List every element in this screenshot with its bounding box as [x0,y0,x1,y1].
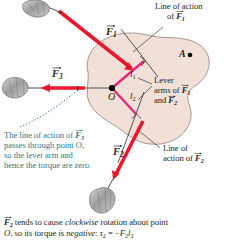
callout-lever-arms: Lever arms of F1 and F2 [154,76,190,107]
caption-emphasis-negative: negative [66,228,95,238]
callout-line-of-action-f2-line2: action of F2 [163,154,204,164]
gripper-f1 [23,0,50,17]
force-label-f1-symbol: F [106,26,113,37]
force-label-f3: F3 [52,68,63,81]
figure-caption: F2 tends to cause clockwise rotation abo… [4,218,226,239]
note-torque-zero: The line of action of F3 passes through … [4,131,91,171]
force-label-f2-subscript: 2 [120,150,124,159]
point-a-label: A [179,48,186,59]
callout-line-of-action-f2: Line of action of F2 [163,144,204,164]
lever-arm-l2-label: l2 [130,91,136,102]
torque-figure: F1 F3 F2 A O l1 l2 Line of action of F1 [0,0,228,243]
lever-arm-l2-subscript: 2 [133,95,136,102]
force-label-f2-symbol: F [113,146,120,157]
callout-lever-arms-line3: and F2 [154,96,190,106]
callout-line-of-action-f1-line2: of F1 [155,12,203,22]
force-label-f3-symbol: F [52,68,59,79]
force-label-f2: F2 [113,146,124,159]
caption-emphasis-clockwise: clockwise [65,217,98,227]
callout-line-of-action-f1: Line of action of F1 [155,2,203,22]
note-leader-dotted [20,90,78,127]
caption-line-2: O, so its torque is negative: τ2 = −F2l2 [4,229,226,240]
gripper-f2 [89,188,115,214]
force-label-f3-subscript: 3 [59,72,63,81]
note-line-4: hence the torque are zero. [4,161,91,171]
point-o-label: O [108,91,115,102]
lever-arm-l1-label: l1 [130,69,136,80]
lever-arm-l1-subscript: 1 [133,73,136,80]
force-label-f1: F1 [106,26,117,39]
gripper-f3 [2,77,28,98]
force-vector-f3 [26,84,85,92]
force-label-f1-subscript: 1 [113,30,117,39]
point-a-marker [188,53,193,58]
